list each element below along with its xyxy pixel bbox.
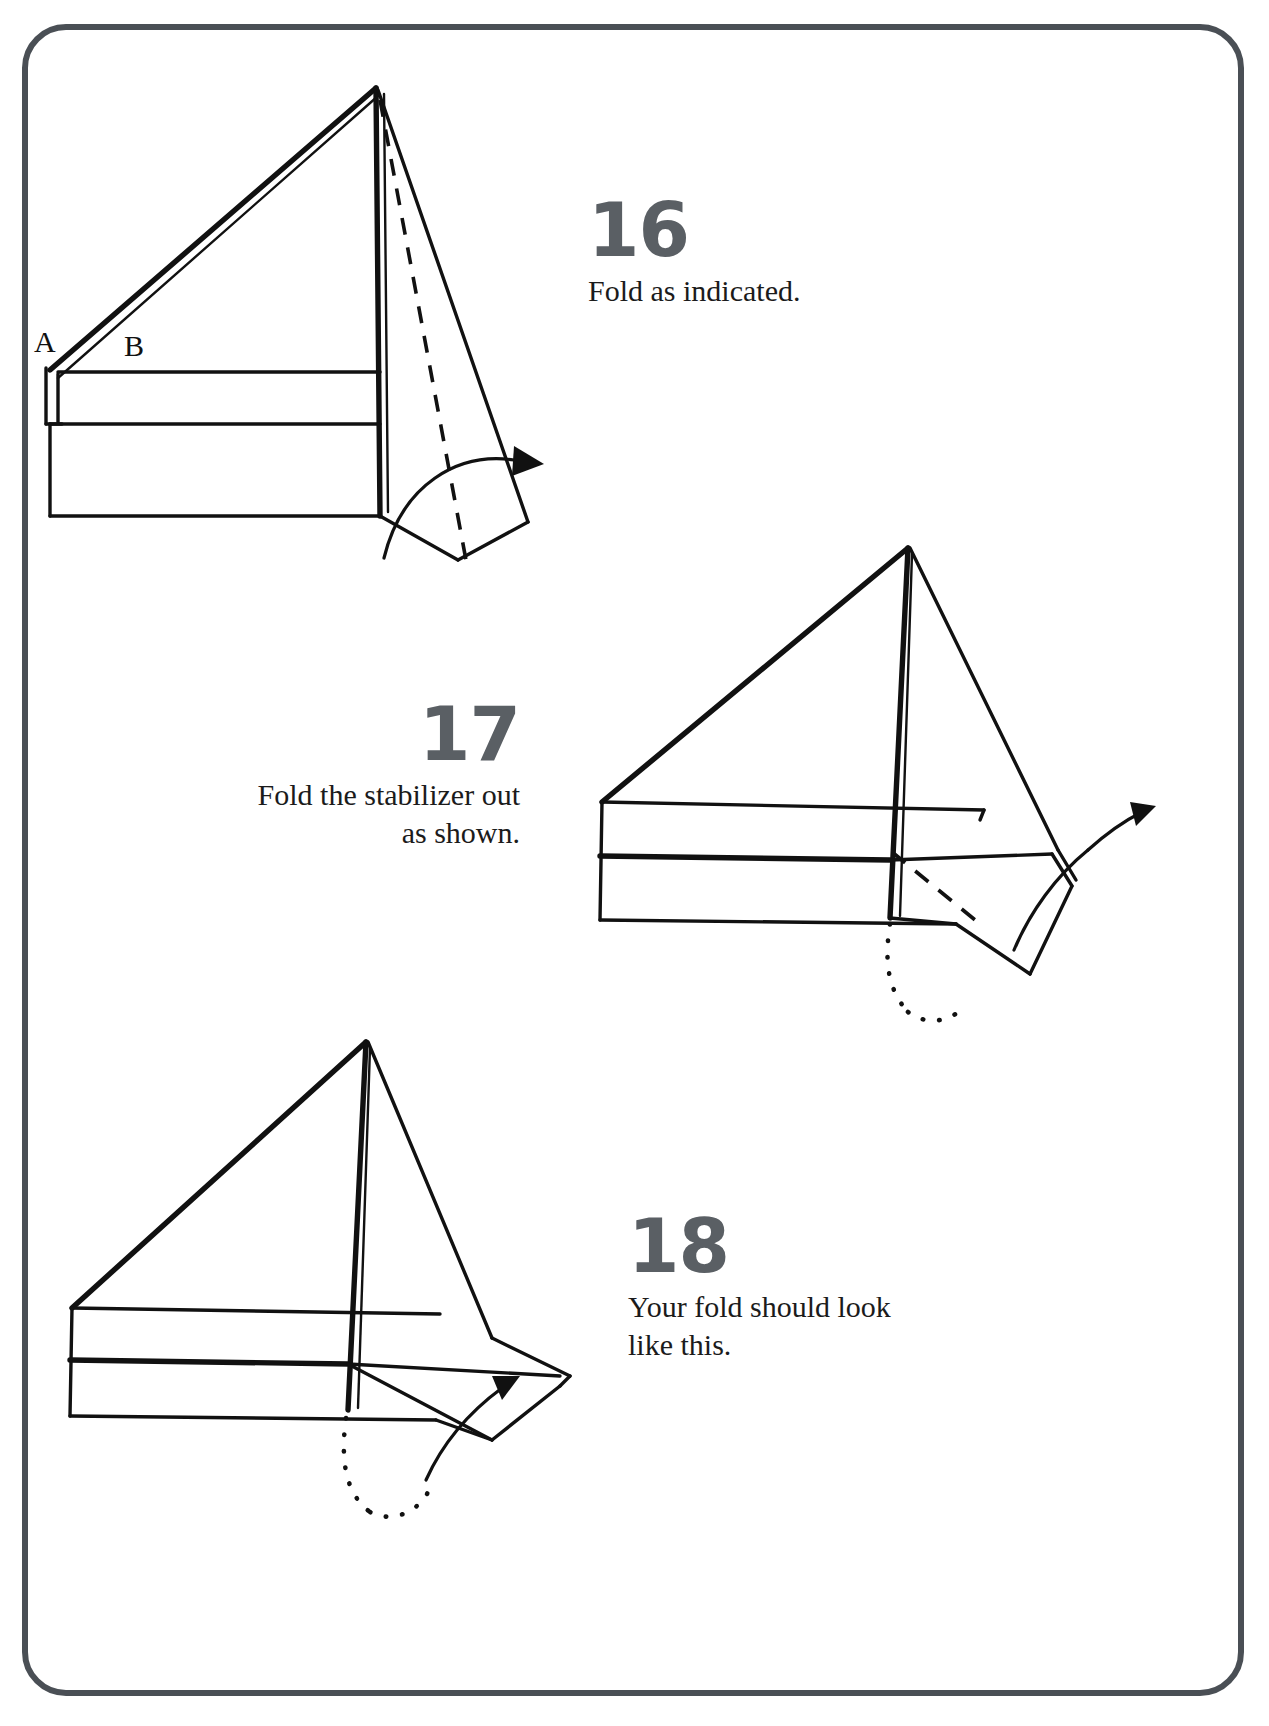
step-16-text-block: 16 Fold as indicated.: [588, 196, 928, 310]
paper-airplane-figure-step-17: [560, 520, 1160, 1040]
fold-label-b: B: [124, 329, 144, 362]
fold-label-a: A: [34, 325, 56, 358]
step-16-number: 16: [588, 196, 928, 264]
step-18-caption: Your fold should look like this.: [628, 1288, 1028, 1365]
step-18-number: 18: [628, 1212, 1028, 1280]
paper-airplane-figure-step-16: A B: [28, 60, 588, 580]
step-17-number: 17: [140, 700, 520, 768]
step-17-caption: Fold the stabilizer out as shown.: [140, 776, 520, 853]
step-18-text-block: 18 Your fold should look like this.: [628, 1212, 1028, 1365]
paper-airplane-figure-step-18: [40, 1020, 660, 1540]
step-17-text-block: 17 Fold the stabilizer out as shown.: [140, 700, 520, 853]
step-16-caption: Fold as indicated.: [588, 272, 928, 310]
